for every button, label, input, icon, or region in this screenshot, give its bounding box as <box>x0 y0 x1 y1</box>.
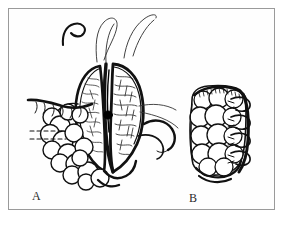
panel-label-b: B <box>189 192 198 204</box>
panel-label-a: A <box>32 190 41 202</box>
figure-border <box>8 8 275 210</box>
figure-root: A B Two-panel black-and-white pen-and-in… <box>0 0 285 225</box>
